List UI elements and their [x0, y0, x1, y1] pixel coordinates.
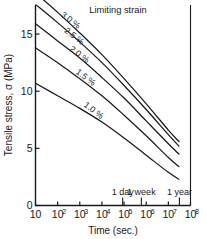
x-tick-label: 107: [163, 208, 177, 221]
chart-figure: 051015101021031041051061071081 day1 week…: [0, 0, 207, 239]
svg-text:2: 2: [62, 208, 66, 215]
y-tick-label: 10: [21, 85, 33, 97]
strain-curve: [36, 83, 179, 179]
series-label: 2.0 %: [68, 44, 92, 65]
svg-text:7: 7: [173, 208, 177, 215]
svg-text:4: 4: [106, 208, 110, 215]
series-label: 1.0 %: [82, 100, 106, 121]
svg-text:5: 5: [129, 208, 133, 215]
svg-text:10: 10: [30, 208, 42, 220]
x-tick-label: 105: [118, 208, 132, 221]
x-tick-label: 104: [96, 208, 110, 221]
svg-text:8: 8: [195, 208, 199, 215]
y-axis-title: Tensile stress, σ (MPa): [3, 54, 14, 156]
strain-curve: [36, 0, 179, 142]
limiting-strain-caption: Limiting strain: [89, 5, 146, 15]
isochronous-stress-chart: 051015101021031041051061071081 day1 week…: [0, 0, 207, 239]
y-tick-label: 5: [27, 142, 33, 154]
x-axis-title: Time (sec.): [88, 225, 138, 236]
time-marker-label: 1 week: [127, 187, 156, 197]
x-tick-label: 106: [140, 208, 154, 221]
x-tick-label: 102: [52, 208, 66, 221]
svg-text:6: 6: [151, 208, 155, 215]
strain-curve: [36, 24, 179, 154]
x-tick-label: 108: [185, 208, 199, 221]
x-tick-label: 103: [74, 208, 88, 221]
strain-curve: [36, 4, 179, 146]
curves-group: [36, 0, 179, 179]
y-tick-label: 15: [21, 28, 33, 40]
x-tick-label: 10: [30, 208, 42, 220]
strain-curve: [36, 48, 179, 167]
svg-text:3: 3: [84, 208, 88, 215]
time-marker-label: 1 year: [167, 187, 192, 197]
